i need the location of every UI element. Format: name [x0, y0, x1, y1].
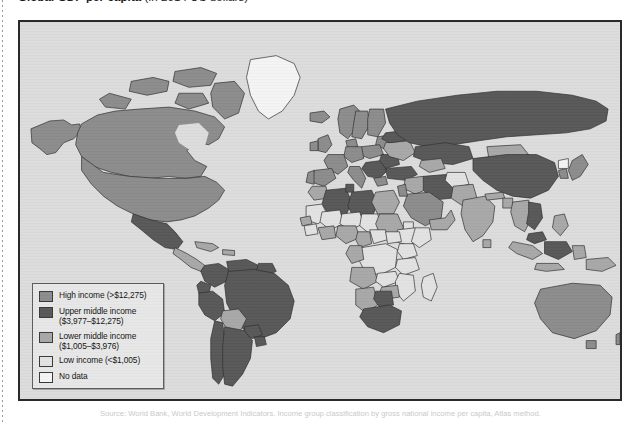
country-malaysia	[527, 232, 547, 244]
country-uganda-kenya	[397, 244, 417, 260]
legend-swatch-upper-middle-income	[39, 307, 53, 318]
figure-caption: Source: World Bank, World Development In…	[100, 409, 630, 422]
country-south-africa	[360, 305, 402, 333]
legend-item-low-income: Low income (<$1,005)	[39, 355, 157, 367]
country-spain	[312, 168, 336, 186]
legend-label-low-income: Low income (<$1,005)	[59, 355, 140, 365]
page-margin-rule	[2, 0, 3, 423]
country-iceland	[310, 111, 330, 123]
country-uzbekistan	[419, 159, 445, 173]
country-new-zealand	[616, 333, 620, 345]
country-south-sudan	[386, 232, 402, 244]
country-baffin	[211, 81, 245, 119]
map-frame: High income (>$12,275) Upper middle inco…	[18, 20, 622, 401]
legend-swatch-low-income	[39, 356, 53, 367]
country-canada-arctic-4	[175, 93, 209, 109]
country-indonesia-sumatra	[509, 242, 543, 260]
legend-swatch-no-data	[39, 372, 53, 383]
country-central-america	[173, 248, 205, 272]
country-papua-new-guinea	[586, 258, 616, 272]
country-angola	[350, 267, 378, 289]
country-cote-divoire-ghana	[318, 226, 336, 240]
country-bangladesh	[503, 198, 513, 208]
figure-title-subtitle: (in 2014 US dollars)	[145, 0, 249, 3]
country-australia	[535, 283, 612, 338]
country-sri-lanka	[483, 240, 491, 248]
country-senegal	[300, 216, 312, 226]
legend-item-no-data: No data	[39, 371, 157, 383]
country-germany	[344, 147, 364, 163]
country-cuba	[195, 242, 219, 252]
country-south-korea	[558, 168, 568, 178]
country-canada-arctic-1	[129, 77, 169, 95]
legend-item-high-income: High income (>$12,275)	[39, 290, 157, 302]
country-north-korea	[558, 159, 568, 169]
country-madagascar	[421, 273, 437, 301]
country-argentina	[223, 327, 253, 386]
country-peru	[199, 291, 225, 321]
legend-label-high-income: High income (>$12,275)	[59, 290, 146, 300]
country-hispaniola	[223, 250, 235, 256]
legend-swatch-high-income	[39, 291, 53, 302]
legend-label-lower-middle-income: Lower middle income ($1,005–$3,976)	[59, 331, 136, 351]
country-alaska	[31, 120, 82, 155]
country-israel-jordan	[397, 184, 407, 196]
country-vietnam-laos	[527, 202, 543, 230]
country-greece	[374, 176, 388, 186]
legend-label-no-data: No data	[59, 371, 88, 381]
country-canada-arctic-3	[99, 93, 131, 109]
country-nepal-bhutan	[485, 192, 505, 200]
country-philippines	[552, 214, 568, 236]
legend-label-upper-middle-income: Upper middle income ($3,977–$12,275)	[59, 306, 136, 326]
country-russia	[386, 91, 609, 146]
country-china	[473, 155, 558, 199]
country-uruguay	[254, 337, 266, 347]
country-car	[370, 230, 388, 244]
country-sulawesi	[572, 246, 586, 260]
country-ireland	[310, 141, 318, 151]
legend-item-lower-middle-income: Lower middle income ($1,005–$3,976)	[39, 331, 157, 351]
figure-title-main: Global GDP per capita	[18, 0, 141, 3]
country-indonesia-java	[535, 263, 565, 271]
country-portugal	[306, 170, 314, 184]
country-cameroon	[356, 232, 372, 248]
country-somalia	[411, 228, 431, 248]
country-canada-arctic-2	[173, 68, 217, 88]
country-borneo	[545, 242, 573, 260]
country-india	[461, 196, 495, 242]
legend-swatch-lower-middle-income	[39, 332, 53, 343]
figure-title: Global GDP per capita (in 2014 US dollar…	[18, 0, 438, 5]
country-egypt	[372, 190, 400, 214]
country-guinea-sierraleone	[304, 224, 318, 236]
country-tanzania	[395, 258, 419, 276]
country-finland	[368, 109, 386, 137]
legend-item-upper-middle-income: Upper middle income ($3,977–$12,275)	[39, 306, 157, 326]
country-united-kingdom	[318, 135, 332, 153]
country-tasmania	[586, 341, 596, 349]
country-greenland	[246, 56, 300, 119]
country-tunisia	[346, 184, 354, 192]
income-group-legend: High income (>$12,275) Upper middle inco…	[32, 283, 164, 389]
country-japan	[568, 155, 588, 181]
